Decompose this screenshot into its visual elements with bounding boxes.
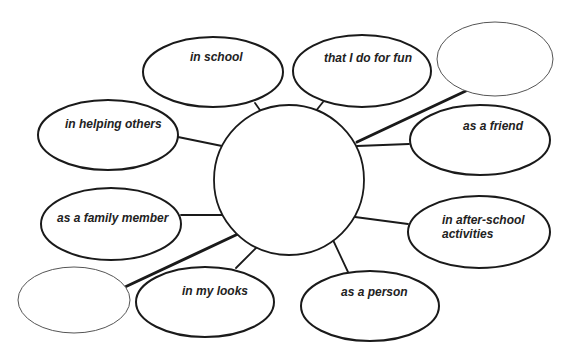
node-label: in my looks — [182, 284, 248, 298]
node-in-school: in school — [143, 37, 283, 107]
node-label: in school — [190, 50, 243, 64]
node-as-a-family-member: as a family member — [41, 188, 181, 260]
connector-as-a-friend — [357, 144, 409, 146]
node-as-a-friend: as a friend — [410, 105, 550, 175]
connector-in-after-school-activities — [355, 217, 408, 224]
connector-as-a-person — [333, 240, 348, 272]
ellipse — [293, 35, 431, 107]
ellipse — [143, 37, 283, 107]
node-in-helping-others: in helping others — [38, 100, 178, 170]
node-that-i-do-for-fun: that I do for fun — [293, 35, 431, 107]
node-label: in helping others — [65, 117, 162, 131]
node-label: as a person — [341, 285, 408, 299]
ellipse — [136, 267, 274, 337]
connector-in-helping-others — [178, 137, 222, 146]
node-as-a-person: as a person — [301, 271, 439, 341]
node-label: in after-school — [442, 213, 525, 227]
blank-ellipse — [437, 22, 553, 96]
node-blank-top-right — [437, 22, 553, 96]
node-in-after-school-activities: in after-schoolactivities — [408, 196, 550, 268]
ellipse — [410, 105, 550, 175]
ellipse — [301, 271, 439, 341]
node-label: as a family member — [57, 211, 170, 225]
blank-ellipse — [18, 267, 130, 333]
node-in-my-looks: in my looks — [136, 267, 274, 337]
connector-in-my-looks — [236, 246, 258, 268]
center-circle — [214, 105, 364, 255]
node-label: activities — [442, 227, 494, 241]
node-label: as a friend — [463, 119, 524, 133]
concept-web-diagram: in schoolthat I do for funin helping oth… — [0, 0, 575, 361]
ellipse — [38, 100, 178, 170]
node-blank-bottom-left — [18, 267, 130, 333]
node-label: that I do for fun — [324, 51, 412, 65]
